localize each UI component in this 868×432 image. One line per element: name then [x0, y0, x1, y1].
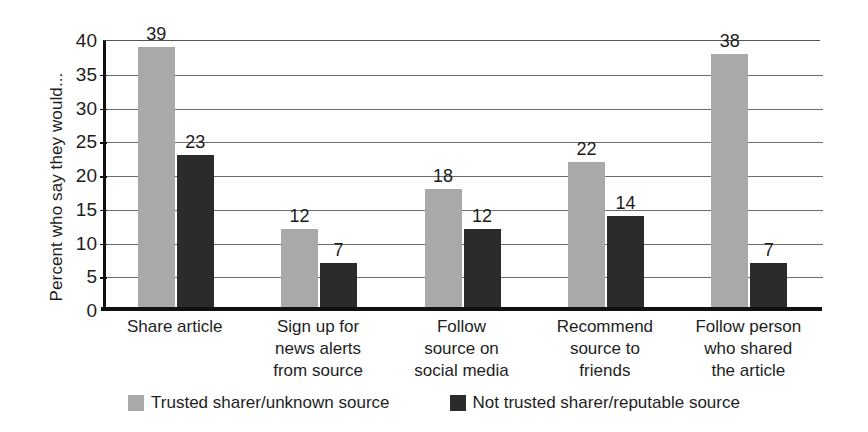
- y-axis-tick-label: 35: [76, 64, 97, 86]
- bar: 7: [750, 263, 787, 310]
- bar: 22: [568, 162, 605, 311]
- x-axis-category-label-line: who shared: [677, 338, 820, 360]
- bar-value-label: 14: [615, 193, 635, 214]
- bar: 23: [177, 155, 214, 310]
- bar: 7: [320, 263, 357, 310]
- y-axis-tick-mark: [100, 75, 107, 77]
- y-axis-tick-label: 0: [86, 300, 97, 322]
- x-axis-category-label-line: Sign up for: [246, 316, 389, 338]
- y-axis-tick-label: 40: [76, 30, 97, 52]
- y-axis-tick-label: 5: [86, 266, 97, 288]
- x-axis-category-label-line: Share article: [103, 316, 246, 338]
- x-axis-category-label-line: Follow: [390, 316, 533, 338]
- y-axis-tick-mark: [100, 142, 107, 144]
- x-axis-category-label-line: source to: [533, 338, 676, 360]
- y-axis-tick-label: 30: [76, 98, 97, 120]
- x-axis-category-label-line: source on: [390, 338, 533, 360]
- bar-value-label: 22: [576, 139, 596, 160]
- y-axis-tick-mark: [100, 210, 107, 212]
- y-axis-tick-mark: [100, 277, 107, 279]
- x-axis-category-label-line: news alerts: [246, 338, 389, 360]
- legend-swatch-icon: [450, 395, 466, 411]
- x-axis-category-label-line: Follow person: [677, 316, 820, 338]
- y-axis-tick-label: 20: [76, 165, 97, 187]
- legend-label: Not trusted sharer/reputable source: [473, 393, 740, 413]
- bar-value-label: 23: [185, 132, 205, 153]
- y-axis-tick-label: 10: [76, 233, 97, 255]
- x-axis-category-label: Sign up fornews alertsfrom source: [246, 316, 389, 382]
- bar-value-label: 12: [290, 206, 310, 227]
- bar: 39: [138, 47, 175, 310]
- bar-chart-figure: Percent who say they would... 0510152025…: [0, 0, 868, 432]
- legend: Trusted sharer/unknown sourceNot trusted…: [0, 393, 868, 413]
- x-axis-category-label: Share article: [103, 316, 246, 338]
- bar-value-label: 39: [146, 24, 166, 45]
- y-axis-title: Percent who say they would...: [47, 42, 67, 332]
- y-axis-tick-label: 25: [76, 131, 97, 153]
- y-axis-tick-label: 15: [76, 199, 97, 221]
- bar: 14: [607, 216, 644, 311]
- plot-area: 0510152025303540 392312718122214387: [103, 40, 820, 310]
- x-axis-category-label-line: Recommend: [533, 316, 676, 338]
- bar-value-label: 38: [720, 31, 740, 52]
- legend-label: Trusted sharer/unknown source: [151, 393, 389, 413]
- x-axis-category-label-line: from source: [246, 360, 389, 382]
- y-axis-tick-mark: [100, 176, 107, 178]
- bar-value-label: 12: [472, 206, 492, 227]
- x-axis-category-label: Recommendsource tofriends: [533, 316, 676, 382]
- y-axis-tick-mark: [100, 109, 107, 111]
- bar-value-label: 7: [334, 240, 344, 261]
- x-axis-category-label-line: the article: [677, 360, 820, 382]
- bar-value-label: 7: [764, 240, 774, 261]
- x-axis-category-label: Follow personwho sharedthe article: [677, 316, 820, 382]
- bar: 12: [281, 229, 318, 310]
- legend-item[interactable]: Trusted sharer/unknown source: [128, 393, 389, 413]
- bar: 38: [711, 54, 748, 311]
- y-axis-tick-mark: [100, 244, 107, 246]
- legend-swatch-icon: [128, 395, 144, 411]
- x-axis-category-label-line: friends: [533, 360, 676, 382]
- bar: 12: [464, 229, 501, 310]
- bar: 18: [425, 189, 462, 311]
- bar-value-label: 18: [433, 166, 453, 187]
- legend-item[interactable]: Not trusted sharer/reputable source: [450, 393, 740, 413]
- x-axis-baseline: [101, 307, 822, 311]
- x-axis-category-label-line: social media: [390, 360, 533, 382]
- x-axis-category-label: Followsource onsocial media: [390, 316, 533, 382]
